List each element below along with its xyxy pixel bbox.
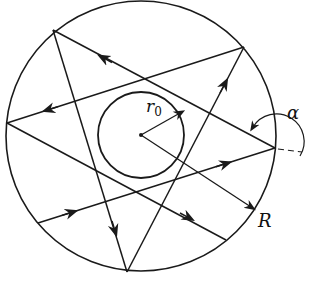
angle-label: α <box>287 102 299 123</box>
inner-radius-label: r0 <box>146 96 162 119</box>
arrow-icon <box>48 107 58 110</box>
outer-radius-arrow <box>141 135 251 207</box>
arrow-icon <box>220 84 225 94</box>
outer-radius-label: R <box>257 210 272 231</box>
ray-paths <box>7 30 275 272</box>
ray-direction-arrows <box>48 58 226 231</box>
angle-reference-dashed-line <box>278 149 302 152</box>
arrow-icon <box>216 164 226 167</box>
ray-segment-2 <box>7 47 244 123</box>
arrow-icon <box>62 212 72 215</box>
ray-segment-3 <box>127 47 244 272</box>
ray-segment-4 <box>53 30 127 272</box>
circle-reflection-diagram: r0 R α <box>0 0 310 283</box>
